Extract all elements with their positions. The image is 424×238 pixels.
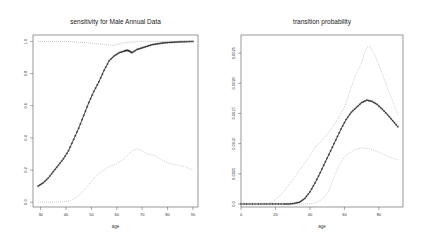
x-axis-label: age (318, 224, 326, 229)
x-tick-label: 60 (115, 212, 120, 217)
y-tick-label: 0.0010 (231, 137, 236, 150)
y-tick-label: 0.6 (23, 102, 28, 108)
x-tick-label: 60 (342, 212, 347, 217)
data-point-marker (297, 201, 299, 203)
x-tick-label: 40 (308, 212, 313, 217)
x-tick-label: 80 (165, 212, 170, 217)
plot-frame (33, 35, 198, 207)
chart-title: transition probability (293, 18, 352, 26)
x-tick-label: 80 (377, 212, 382, 217)
y-tick-label: 0.0 (23, 199, 28, 205)
x-tick-label: 0 (240, 212, 243, 217)
y-tick-label: 0.0 (231, 200, 236, 206)
series-upper-bound-line (241, 47, 398, 204)
plot-frame (241, 35, 403, 207)
panel-sensitivity: sensitivity for Male Annual Data age 304… (23, 18, 198, 229)
x-tick-label: 20 (273, 212, 278, 217)
x-tick-label: 40 (64, 212, 69, 217)
y-tick-label: 0.0025 (231, 46, 236, 59)
data-point-marker (369, 100, 371, 102)
y-tick-label: 0.8 (23, 70, 28, 76)
y-tick-label: 0.0015 (231, 107, 236, 120)
y-tick-label: 0.2 (23, 166, 28, 172)
figure-canvas: sensitivity for Male Annual Data age 304… (0, 0, 424, 238)
chart-title: sensitivity for Male Annual Data (70, 18, 161, 26)
x-axis-label: age (112, 224, 120, 229)
x-tick-label: 90 (191, 212, 196, 217)
y-tick-label: 1.0 (23, 38, 28, 44)
data-point-marker (367, 99, 369, 101)
y-tick-label: 0.0005 (231, 167, 236, 180)
x-tick-label: 70 (140, 212, 145, 217)
series-lower-bound-line (38, 149, 193, 202)
series-estimate-line (38, 41, 193, 186)
x-tick-label: 30 (38, 212, 43, 217)
y-tick-label: 0.4 (23, 134, 28, 140)
figure: sensitivity for Male Annual Data age 304… (0, 0, 424, 238)
x-tick-label: 50 (89, 212, 94, 217)
series-estimate-line (241, 100, 398, 204)
panel-transition-probability: transition probability age 0204060800.00… (231, 18, 403, 229)
y-tick-label: 0.0020 (231, 76, 236, 89)
